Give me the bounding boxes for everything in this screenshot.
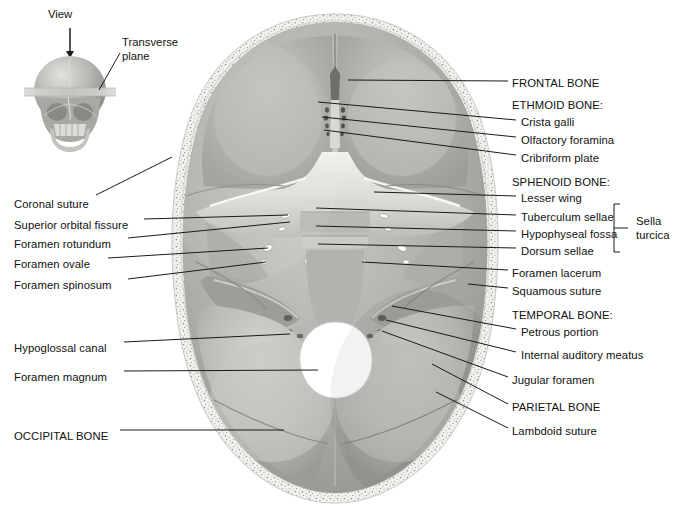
- label-foramen-lacerum: Foramen lacerum: [512, 267, 601, 280]
- label-foramen-spinosum: Foramen spinosum: [14, 279, 112, 292]
- orientation-inset-graphic: [24, 28, 120, 152]
- cranial-cavity: [160, 20, 510, 510]
- label-cribriform-plate: Cribriform plate: [521, 152, 599, 165]
- label-jugular-foramen: Jugular foramen: [512, 374, 594, 387]
- label-lesser-wing: Lesser wing: [521, 192, 582, 205]
- inset-transverse-plane-label: Transverse plane: [122, 36, 178, 63]
- hypoglossal-canal-mark: [297, 334, 303, 338]
- label-foramen-magnum: Foramen magnum: [14, 371, 107, 384]
- figure-canvas: FRONTAL BONEETHMOID BONE:Crista galliOlf…: [0, 0, 676, 518]
- label-hypophyseal-fossa: Hypophyseal fossa: [521, 228, 617, 241]
- label-parietal-bone: PARIETAL BONE: [512, 401, 600, 414]
- label-hypoglossal-canal: Hypoglossal canal: [14, 342, 107, 355]
- label-olfactory-foramina: Olfactory foramina: [521, 134, 614, 147]
- label-tuberculum-sellae: Tuberculum sellae: [521, 211, 614, 224]
- label-ethmoid-bone: ETHMOID BONE:: [512, 99, 603, 112]
- label-sphenoid-bone: SPHENOID BONE:: [512, 176, 610, 189]
- label-foramen-rotundum: Foramen rotundum: [14, 238, 111, 251]
- label-internal-auditory-meatus: Internal auditory meatus: [521, 349, 643, 362]
- label-squamous-suture: Squamous suture: [512, 285, 601, 298]
- inset-view-label: View: [48, 8, 72, 22]
- label-frontal-bone: FRONTAL BONE: [512, 77, 599, 90]
- sella-turcica-label: Sella turcica: [636, 215, 670, 242]
- label-lambdoid-suture: Lambdoid suture: [512, 425, 597, 438]
- label-petrous-portion: Petrous portion: [521, 326, 598, 339]
- label-crista-galli: Crista galli: [521, 116, 574, 129]
- label-dorsum-sellae: Dorsum sellae: [521, 245, 594, 258]
- label-superior-orbital-fissure: Superior orbital fissure: [14, 219, 128, 232]
- label-foramen-ovale: Foramen ovale: [14, 258, 90, 271]
- leader-coronal-suture: [96, 157, 172, 195]
- label-coronal-suture: Coronal suture: [14, 198, 89, 211]
- label-occipital-bone: OCCIPITAL BONE: [14, 430, 108, 443]
- label-temporal-bone: TEMPORAL BONE:: [512, 309, 613, 322]
